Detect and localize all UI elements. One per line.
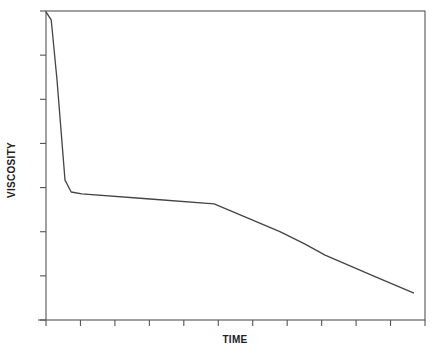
x-axis-label: TIME [222,334,247,345]
viscosity-time-chart [0,0,437,357]
x-axis-ticks [46,320,425,326]
y-axis-ticks [40,11,46,320]
y-axis-label: VISCOSITY [6,142,17,198]
viscosity-line [46,12,414,293]
